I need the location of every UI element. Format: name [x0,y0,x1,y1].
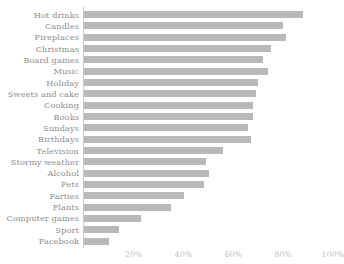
category-label: Holiday [46,79,79,87]
x-tick-label: 80% [274,250,291,259]
bar [84,113,253,120]
bar-row [84,43,333,54]
category-label-row: Plants [0,202,79,213]
category-label-row: Birthdays [0,134,79,145]
category-label: Books [53,113,79,121]
category-label-row: Parties [0,190,79,201]
bar [84,158,206,165]
bar-row [84,54,333,65]
bar-rows [84,9,333,247]
bar [84,90,256,97]
bar [84,147,223,154]
bar-row [84,213,333,224]
category-label-row: Pets [0,179,79,190]
category-label: Facebook [39,237,79,245]
category-label: Alcohol [47,169,79,177]
bar [84,238,109,245]
category-label: Sundays [43,124,79,132]
category-label: Computer games [7,214,79,222]
bar [84,102,253,109]
bar [84,215,141,222]
category-label: Sweets and cake [8,90,79,98]
bar-row [84,224,333,235]
category-label: Candles [45,22,79,30]
x-tick-label: 60% [225,250,242,259]
bar-row [84,122,333,133]
category-label-row: Christmas [0,43,79,54]
x-axis: 20%40%60%80%100% [84,247,333,263]
bar-row [84,190,333,201]
bar [84,170,209,177]
bar-row [84,168,333,179]
category-label: Music [53,67,79,75]
bar [84,56,263,63]
bar [84,79,258,86]
category-label: Birthdays [38,135,79,143]
bar-row [84,134,333,145]
bar [84,45,271,52]
category-label: Television [37,147,79,155]
bar-row [84,9,333,20]
category-label-row: Sport [0,224,79,235]
bar-row [84,88,333,99]
bar [84,204,171,211]
bar [84,136,251,143]
bar-row [84,236,333,247]
bar [84,226,119,233]
category-label: Parties [49,192,79,200]
category-label: Board games [23,56,79,64]
category-label-row: Alcohol [0,168,79,179]
x-tick-label: 40% [175,250,192,259]
category-label-row: Candles [0,20,79,31]
bar [84,68,268,75]
category-label: Pets [61,180,79,188]
bar-row [84,66,333,77]
bar-row [84,111,333,122]
category-label: Plants [53,203,79,211]
category-label: Stormy weather [11,158,79,166]
category-label-row: Stormy weather [0,156,79,167]
bar-row [84,100,333,111]
x-tick-label: 20% [125,250,142,259]
category-label-row: Cooking [0,100,79,111]
bar-row [84,156,333,167]
bar [84,34,286,41]
category-label-row: Computer games [0,213,79,224]
category-label: Christmas [36,45,79,53]
category-label-row: Sundays [0,122,79,133]
bar [84,181,204,188]
category-label: Sport [56,226,79,234]
category-label-row: Television [0,145,79,156]
category-label-row: Hot drinks [0,9,79,20]
category-label-row: Facebook [0,236,79,247]
category-label-row: Music [0,66,79,77]
bar [84,192,184,199]
category-label-row: Books [0,111,79,122]
bar [84,124,248,131]
x-tick-label: 100% [322,250,344,259]
category-label: Hot drinks [34,11,79,19]
category-label-row: Holiday [0,77,79,88]
bar-row [84,77,333,88]
category-label-row: Fireplaces [0,32,79,43]
category-label-row: Sweets and cake [0,88,79,99]
bar [84,22,283,29]
category-label: Fireplaces [35,33,79,41]
category-label: Cooking [44,101,79,109]
bar-row [84,202,333,213]
category-label-row: Board games [0,54,79,65]
plot-area [84,9,333,247]
bar [84,11,303,18]
category-axis-labels: Hot drinksCandlesFireplacesChristmasBoar… [0,9,79,247]
bar-row [84,179,333,190]
bar-row [84,20,333,31]
bar-row [84,145,333,156]
bar-row [84,32,333,43]
